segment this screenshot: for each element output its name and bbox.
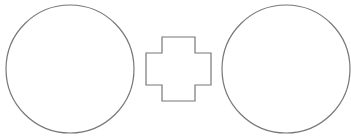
left-circle	[6, 5, 134, 133]
center-cross	[146, 37, 211, 101]
right-circle	[222, 5, 350, 133]
diagram-canvas	[0, 0, 351, 137]
